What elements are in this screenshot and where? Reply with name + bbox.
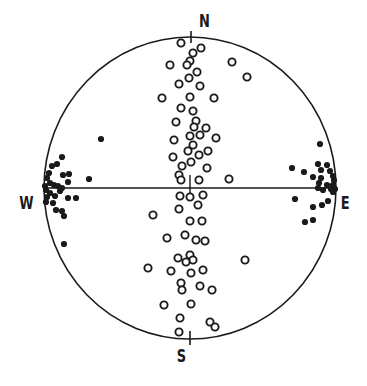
open-circle-pole (195, 176, 202, 183)
filled-dot-pole (289, 165, 295, 171)
filled-dot-pole (57, 188, 63, 194)
west-label: W (19, 195, 33, 212)
filled-dot-pole (301, 169, 307, 175)
filled-dot-pole (310, 204, 316, 210)
open-circle-pole (170, 136, 177, 143)
open-circle-pole (175, 80, 182, 87)
open-circle-pole (192, 236, 199, 243)
filled-dot-pole (50, 200, 56, 206)
open-circle-pole (187, 158, 194, 165)
filled-dot-pole (310, 174, 316, 180)
filled-dot-pole (65, 195, 71, 201)
open-circle-pole (182, 258, 189, 265)
filled-dot-pole (330, 189, 336, 195)
open-circle-pole (211, 323, 218, 330)
filled-dot-pole (319, 202, 325, 208)
filled-dot-pole (43, 199, 49, 205)
open-circle-pole (195, 151, 202, 158)
open-circle-pole (196, 131, 203, 138)
open-circle-pole (177, 39, 184, 46)
open-circle-pole (241, 256, 248, 263)
open-circle-pole (178, 162, 185, 169)
open-circle-pole (184, 147, 191, 154)
open-circle-pole (166, 61, 173, 68)
filled-dot-pole (60, 172, 66, 178)
open-circle-pole (186, 132, 193, 139)
open-circle-pole (194, 201, 201, 208)
south-label: S (177, 348, 186, 365)
east-label: E (341, 195, 350, 212)
open-circle-pole (186, 193, 193, 200)
filled-dot-pole (49, 163, 55, 169)
open-circle-pole (198, 217, 205, 224)
open-circle-pole (201, 237, 208, 244)
open-circle-pole (203, 164, 210, 171)
filled-dot-pole (98, 136, 104, 142)
open-circle-pole (208, 286, 215, 293)
open-circle-pole (163, 234, 170, 241)
open-circle-pole (193, 68, 200, 75)
filled-dot-pole (86, 176, 92, 182)
open-circle-pole (185, 74, 192, 81)
open-circle-pole (186, 93, 193, 100)
open-circle-pole (199, 191, 206, 198)
stereonet-plot (0, 0, 367, 386)
open-circle-pole (176, 192, 183, 199)
open-circle-pole (199, 266, 206, 273)
open-circle-pole (176, 314, 183, 321)
open-circle-pole (144, 264, 151, 271)
open-circle-pole (189, 49, 196, 56)
open-circle-pole (196, 82, 203, 89)
open-circle-pole (197, 44, 204, 51)
open-circle-pole (158, 94, 165, 101)
filled-dot-pole (52, 193, 58, 199)
filled-dot-pole (65, 179, 71, 185)
open-circle-pole (167, 267, 174, 274)
open-circle-pole (212, 134, 219, 141)
open-circle-pole (160, 301, 167, 308)
open-circle-pole (190, 123, 197, 130)
filled-dot-pole (310, 217, 316, 223)
open-circle-pole (172, 118, 179, 125)
open-circle-pole (210, 94, 217, 101)
open-circle-pole (225, 175, 232, 182)
open-circle-pole (175, 205, 182, 212)
open-circle-pole (175, 328, 182, 335)
filled-dot-pole (59, 154, 65, 160)
open-circle-pole (187, 269, 194, 276)
filled-dot-pole (325, 198, 331, 204)
open-circle-pole (204, 147, 211, 154)
filled-dot-pole (66, 171, 72, 177)
open-circle-pole (189, 107, 196, 114)
open-circle-pole (187, 300, 194, 307)
open-circle-pole (178, 286, 185, 293)
open-circle-pole (228, 58, 235, 65)
filled-dot-pole (73, 195, 79, 201)
open-circle-pole (181, 231, 188, 238)
open-circle-pole (177, 176, 184, 183)
filled-dot-pole (61, 241, 67, 247)
open-circle-pole (149, 211, 156, 218)
filled-dot-pole (292, 196, 298, 202)
filled-dot-pole (61, 213, 67, 219)
open-circle-pole (177, 279, 184, 286)
filled-dot-pole (53, 207, 59, 213)
open-circle-pole (174, 254, 181, 261)
filled-dot-pole (318, 167, 324, 173)
filled-dot-pole (317, 141, 323, 147)
open-circle-pole (196, 282, 203, 289)
filled-dot-pole (302, 219, 308, 225)
open-circle-pole (186, 217, 193, 224)
open-circle-pole (183, 61, 190, 68)
north-label: N (199, 13, 210, 30)
filled-dot-pole (324, 162, 330, 168)
open-circle-pole (243, 73, 250, 80)
open-circle-pole (177, 104, 184, 111)
open-circle-pole (169, 153, 176, 160)
filled-dot-pole (331, 177, 337, 183)
filled-dot-pole (315, 185, 321, 191)
filled-dot-pole (315, 161, 321, 167)
open-circle-pole (202, 124, 209, 131)
